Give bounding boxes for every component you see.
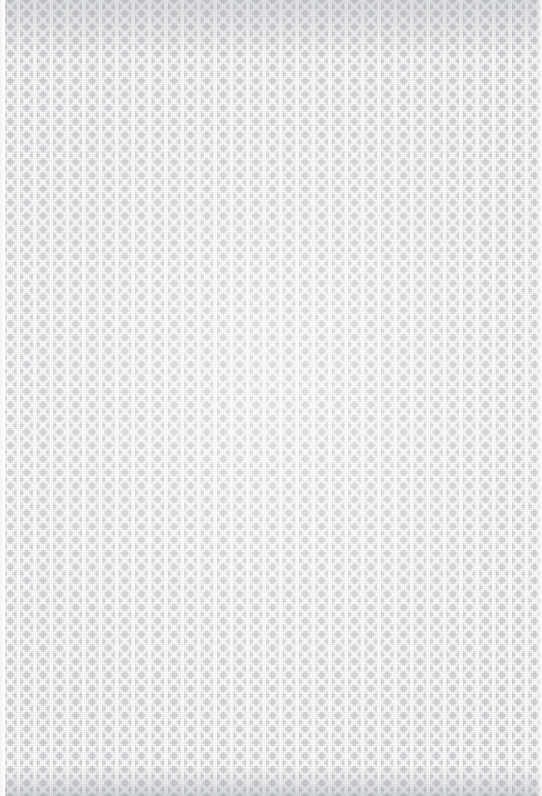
grid-cell-texture: [0, 0, 542, 796]
grid-view[interactable]: Spreadsheet Grid Densely packed grid of …: [0, 0, 542, 796]
grid-surface[interactable]: [0, 0, 542, 796]
